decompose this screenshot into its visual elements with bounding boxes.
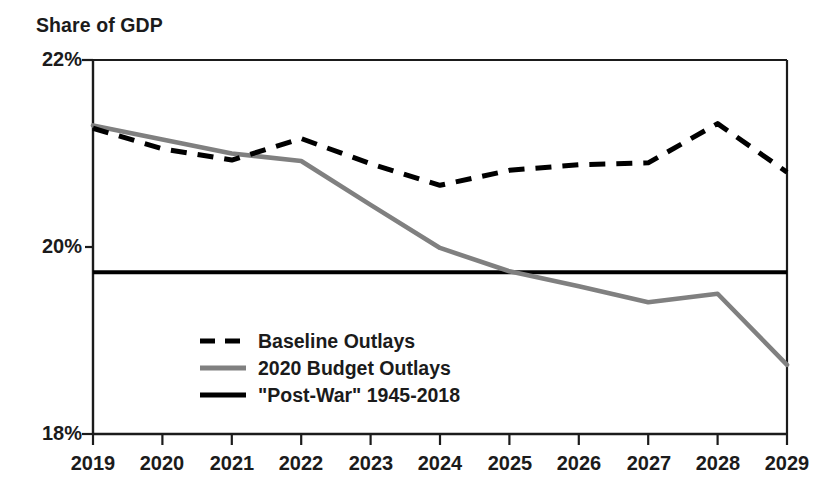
legend-swatches (200, 341, 246, 395)
series-line-baseline-outlays (93, 124, 787, 186)
chart-container: Share of GDP 22% 20% 18% 2019 2020 2021 … (0, 0, 825, 496)
plot-area (0, 0, 825, 496)
x-axis-ticks (93, 434, 787, 445)
series-line-2020-budget-outlays (93, 125, 787, 364)
y-axis-ticks (82, 60, 93, 434)
series-layer (93, 124, 787, 365)
